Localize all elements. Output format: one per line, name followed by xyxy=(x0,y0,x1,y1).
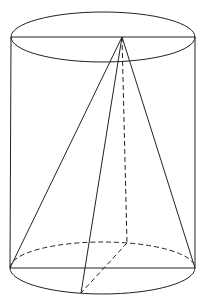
edge-apex-right xyxy=(122,37,195,268)
edge-apex-left xyxy=(10,37,122,268)
bottom-ellipse-back xyxy=(10,242,195,268)
cylinder-left-side xyxy=(10,37,11,268)
bottom-ellipse-front xyxy=(10,268,195,294)
cylinder-pyramid-diagram xyxy=(0,0,206,302)
edge-apex-back xyxy=(122,37,127,243)
